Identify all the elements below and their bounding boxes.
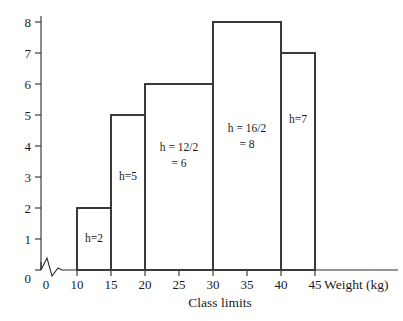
bar-annotation-label: h=5 <box>119 170 137 182</box>
x-axis-break-zigzag <box>41 258 62 276</box>
bar-annotation-label: h = 16/2 <box>228 122 267 134</box>
bar-annotation-label-line2: = 6 <box>171 157 186 169</box>
x-axis-title: Class limits <box>188 295 251 310</box>
x-tick-label-10: 10 <box>71 277 84 292</box>
y-tick-label-3: 3 <box>25 170 32 185</box>
x-axis-tick-labels: 0 10 15 20 25 30 35 40 45 <box>43 277 322 292</box>
histogram-bar <box>281 53 315 270</box>
x-axis-ticks <box>77 270 315 276</box>
y-tick-label-1: 1 <box>25 232 32 247</box>
y-tick-label-8: 8 <box>25 15 32 30</box>
x-tick-label-45: 45 <box>309 277 322 292</box>
y-axis-tick-labels: 0 1 2 3 4 5 6 7 8 <box>25 15 32 286</box>
x-tick-label-20: 20 <box>139 277 152 292</box>
x-tick-label-30: 30 <box>207 277 220 292</box>
bar-annotations: h=2 h=5 h = 12/2 = 6 h = 16/2 = 8 h=7 <box>85 113 307 244</box>
histogram-bar <box>145 84 213 270</box>
x-tick-label-40: 40 <box>275 277 288 292</box>
x-tick-label-35: 35 <box>241 277 254 292</box>
bar-annotation-label: h=7 <box>289 113 307 125</box>
bar-annotation-label: h=2 <box>85 232 103 244</box>
y-tick-label-6: 6 <box>25 77 32 92</box>
y-axis-ticks <box>35 22 41 270</box>
y-tick-label-0: 0 <box>25 271 32 286</box>
x-tick-label-0: 0 <box>43 277 50 292</box>
bar-annotation-label-line2: = 8 <box>239 138 254 150</box>
histogram-figure: 0 1 2 3 4 5 6 7 8 0 10 15 20 25 <box>0 0 403 321</box>
x-axis-unit-title: Weight (kg) <box>324 277 389 292</box>
bar-annotation-label: h = 12/2 <box>160 141 199 153</box>
y-tick-label-5: 5 <box>25 108 32 123</box>
histogram-bar <box>111 115 145 270</box>
x-tick-label-15: 15 <box>105 277 118 292</box>
y-tick-label-2: 2 <box>25 201 32 216</box>
x-tick-label-25: 25 <box>173 277 186 292</box>
y-tick-label-7: 7 <box>25 46 32 61</box>
chart-canvas: 0 1 2 3 4 5 6 7 8 0 10 15 20 25 <box>0 0 403 321</box>
y-tick-label-4: 4 <box>25 139 32 154</box>
